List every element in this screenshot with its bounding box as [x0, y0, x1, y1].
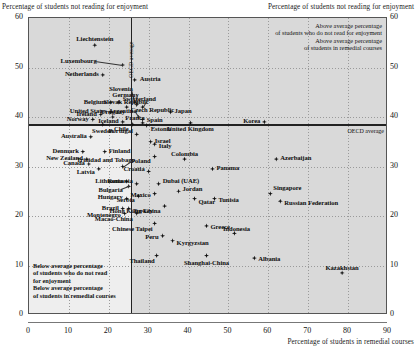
data-point-label: Spain [147, 116, 163, 123]
data-point-label: Chinese Taipei [112, 225, 153, 232]
x-tick-label: 60 [255, 326, 279, 335]
data-point-label: Bulgaria [99, 186, 123, 193]
y-tick-label-left: 50 [1, 62, 23, 71]
data-point-label: Tunisia [218, 196, 238, 203]
data-point-label: Austria [140, 75, 161, 82]
data-point-marker [204, 223, 209, 228]
oecd-average-horizontal-label: OECD average [348, 128, 384, 134]
data-point-marker [90, 117, 95, 122]
data-point-label: United Kingdom [167, 125, 213, 132]
scatter-plot-area: OECD average OECD average Above average … [28, 17, 387, 314]
y-tick-label-left: 20 [1, 210, 23, 219]
x-tick-label: 10 [56, 326, 80, 335]
data-point-label: Russian Federation [284, 199, 338, 206]
data-point-label: Korea [243, 117, 260, 124]
data-point-label: Serbia [117, 196, 135, 203]
data-point-label: Switzerland [123, 95, 156, 102]
data-point-marker [144, 123, 149, 128]
y-tick-label-left: 0 [1, 309, 23, 318]
data-point-label: Uruguay [100, 108, 125, 115]
data-point-label: Shanghai-China [184, 259, 229, 266]
data-point-marker [160, 233, 165, 238]
data-point-marker [268, 191, 273, 196]
data-point-label: Singapore [273, 184, 301, 191]
x-tick-label: 40 [176, 326, 200, 335]
data-point-label: Czech Republic [131, 106, 174, 113]
y-tick-label-right: 10 [390, 260, 414, 269]
data-point-marker [80, 149, 85, 154]
data-point-marker [102, 149, 107, 154]
data-point-label: Denmark [52, 147, 78, 154]
y-tick-label-right: 20 [390, 210, 414, 219]
data-point-label: Finland [109, 147, 131, 154]
x-tick-label: 30 [136, 326, 160, 335]
data-point-marker [96, 166, 101, 171]
y-tick-label-right: 0 [390, 309, 414, 318]
data-point-marker [204, 253, 209, 258]
data-point-marker [134, 181, 139, 186]
data-point-label: Italy [159, 142, 172, 149]
data-point-marker [262, 119, 267, 124]
data-point-label: Macao-China [95, 215, 133, 222]
x-tick-label: 20 [96, 326, 120, 335]
data-point-label: Iceland [98, 117, 119, 124]
y-tick-label-right: 60 [390, 12, 414, 21]
y-tick-label-right: 50 [390, 62, 414, 71]
data-point-label: Jordan [183, 185, 203, 192]
data-point-label: Albania [258, 255, 280, 262]
x-tick-label: 70 [295, 326, 319, 335]
data-point-label: Qatar [199, 198, 216, 205]
y-tick-label-left: 40 [1, 111, 23, 120]
data-point-marker [92, 43, 97, 48]
gridline-horizontal [29, 68, 386, 69]
data-point-label: Azerbaijan [280, 154, 311, 161]
data-point-marker [274, 157, 279, 162]
data-point-marker [156, 181, 161, 186]
data-point-label: Latvia [77, 168, 95, 175]
data-point-label: Japan [175, 107, 192, 114]
data-point-marker [162, 204, 167, 209]
data-point-marker [100, 72, 105, 77]
data-point-label: Indonesia [223, 225, 250, 232]
data-point-label: Norway [67, 115, 89, 122]
data-point-marker [252, 256, 257, 261]
data-point-label: Panama [216, 164, 239, 171]
y-axis-title-right: Percentage of students not reading for e… [268, 3, 414, 11]
data-point-marker [210, 166, 215, 171]
data-point-label: Colombia [171, 150, 198, 157]
data-point-label: Peru [145, 233, 158, 240]
data-point-label: Portugal [109, 127, 133, 134]
gridline-vertical [268, 18, 269, 313]
data-point-label: Thailand [129, 257, 154, 264]
x-tick-label: 50 [215, 326, 239, 335]
data-point-marker [278, 199, 283, 204]
data-point-marker [134, 132, 139, 137]
data-point-marker [176, 189, 181, 194]
oecd-average-vertical-label: OECD average [128, 42, 134, 78]
data-point-marker [152, 191, 157, 196]
data-point-label: Luxembourg [61, 57, 97, 64]
data-point-marker [154, 253, 159, 258]
x-tick-label: 0 [16, 326, 40, 335]
gridline-vertical [189, 18, 190, 313]
above-average-annotation: Above average percentage of students who… [275, 22, 382, 52]
data-point-label: Dubai (UAE) [163, 177, 200, 184]
gridline-vertical [149, 18, 150, 313]
data-point-label: Romania [107, 177, 132, 184]
data-point-label: Hong Kong-China [110, 207, 161, 214]
y-tick-label-right: 30 [390, 161, 414, 170]
data-point-label: Trinidad and Tobago [76, 156, 134, 163]
y-tick-label-left: 30 [1, 161, 23, 170]
data-point-label: Belgium [84, 98, 107, 105]
data-point-label: Australia [61, 132, 87, 139]
data-point-marker [88, 134, 93, 139]
data-point-label: Liechtenstein [76, 35, 113, 42]
data-point-marker [132, 77, 137, 82]
x-tick-label: 80 [335, 326, 359, 335]
x-tick-label: 90 [375, 326, 399, 335]
gridline-horizontal [29, 216, 386, 217]
x-axis-rule [28, 322, 387, 323]
data-point-label: Croatia [124, 165, 145, 172]
data-point-marker [192, 196, 197, 201]
data-point-label: Kazakhstan [326, 264, 359, 271]
